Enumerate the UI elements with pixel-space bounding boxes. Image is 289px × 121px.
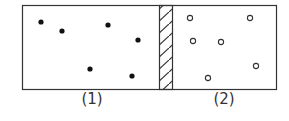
partition-wall bbox=[160, 6, 173, 90]
chamber-1-label: (1) bbox=[72, 90, 112, 108]
filled-particle-icon bbox=[129, 73, 134, 78]
chamber-2-particles bbox=[187, 15, 258, 80]
filled-particle-icon bbox=[105, 22, 110, 27]
chamber-1-particles bbox=[38, 19, 140, 78]
filled-particle-icon bbox=[38, 19, 43, 24]
hollow-particle-icon bbox=[218, 39, 223, 44]
hollow-particle-icon bbox=[190, 38, 195, 43]
hollow-particle-icon bbox=[253, 63, 258, 68]
container-outline bbox=[23, 6, 277, 90]
chamber-2-label: (2) bbox=[204, 90, 244, 108]
hollow-particle-icon bbox=[187, 15, 192, 20]
container-diagram bbox=[0, 0, 289, 121]
filled-particle-icon bbox=[135, 37, 140, 42]
filled-particle-icon bbox=[87, 66, 92, 71]
filled-particle-icon bbox=[59, 28, 64, 33]
hollow-particle-icon bbox=[205, 75, 210, 80]
hollow-particle-icon bbox=[247, 15, 252, 20]
